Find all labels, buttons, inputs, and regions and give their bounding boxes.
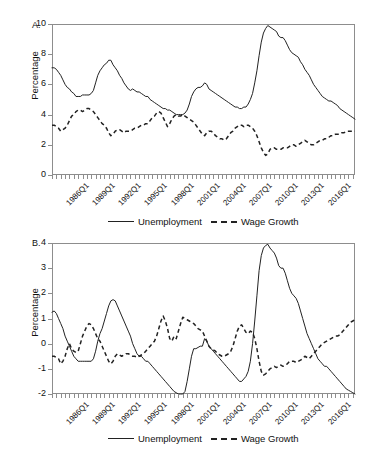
x-tick-mark bbox=[348, 175, 349, 179]
y-tick-label: 1 bbox=[18, 313, 46, 323]
x-tick-mark bbox=[148, 175, 149, 179]
x-tick-mark bbox=[331, 175, 332, 179]
x-tick-mark bbox=[322, 394, 323, 398]
x-tick-mark bbox=[226, 394, 227, 398]
x-tick-mark bbox=[239, 175, 240, 179]
panel-a: A. Percentage 02468101986Q11989Q11992Q11… bbox=[0, 0, 373, 232]
x-tick-mark bbox=[348, 394, 349, 398]
x-tick-mark bbox=[52, 394, 53, 398]
y-tick-mark bbox=[48, 268, 52, 269]
legend-label: Unemployment bbox=[138, 216, 202, 227]
y-tick-mark bbox=[48, 369, 52, 370]
y-tick-label: -1 bbox=[18, 363, 46, 373]
series-unemployment bbox=[52, 244, 355, 394]
x-tick-mark bbox=[274, 175, 275, 179]
x-tick-mark bbox=[104, 175, 105, 179]
x-tick-mark bbox=[61, 175, 62, 179]
y-tick-mark bbox=[48, 145, 52, 146]
x-tick-mark bbox=[69, 394, 70, 398]
x-tick-mark bbox=[344, 175, 345, 179]
x-tick-mark bbox=[91, 175, 92, 179]
x-tick-mark bbox=[205, 394, 206, 398]
panel-b-series-layer bbox=[0, 231, 373, 463]
x-tick-mark bbox=[130, 394, 131, 398]
x-tick-mark bbox=[130, 175, 131, 179]
x-tick-mark bbox=[318, 175, 319, 179]
x-tick-mark bbox=[309, 394, 310, 398]
legend-item: Unemployment bbox=[108, 216, 202, 227]
x-tick-mark bbox=[100, 175, 101, 179]
x-tick-mark bbox=[104, 394, 105, 398]
x-tick-mark bbox=[253, 175, 254, 179]
y-tick-mark bbox=[48, 319, 52, 320]
x-tick-mark bbox=[292, 175, 293, 179]
x-tick-mark bbox=[331, 394, 332, 398]
y-tick-mark bbox=[48, 54, 52, 55]
x-tick-mark bbox=[109, 175, 110, 179]
x-tick-mark bbox=[135, 394, 136, 398]
x-tick-mark bbox=[200, 394, 201, 398]
x-tick-mark bbox=[122, 394, 123, 398]
x-tick-mark bbox=[78, 394, 79, 398]
x-tick-mark bbox=[218, 394, 219, 398]
x-tick-mark bbox=[196, 394, 197, 398]
x-tick-mark bbox=[87, 394, 88, 398]
y-tick-label: 2 bbox=[18, 139, 46, 149]
x-tick-mark bbox=[96, 394, 97, 398]
y-tick-label: 6 bbox=[18, 78, 46, 88]
x-tick-mark bbox=[344, 394, 345, 398]
x-tick-mark bbox=[83, 394, 84, 398]
y-tick-mark bbox=[48, 115, 52, 116]
x-tick-mark bbox=[239, 394, 240, 398]
x-tick-mark bbox=[335, 175, 336, 179]
x-tick-mark bbox=[117, 175, 118, 179]
x-tick-mark bbox=[139, 394, 140, 398]
x-tick-mark bbox=[83, 175, 84, 179]
x-tick-mark bbox=[122, 175, 123, 179]
x-tick-mark bbox=[183, 394, 184, 398]
x-tick-mark bbox=[279, 175, 280, 179]
legend-label: Unemployment bbox=[138, 433, 202, 444]
x-tick-mark bbox=[287, 394, 288, 398]
x-tick-mark bbox=[226, 175, 227, 179]
x-tick-mark bbox=[292, 394, 293, 398]
x-tick-mark bbox=[91, 394, 92, 398]
x-tick-mark bbox=[305, 175, 306, 179]
x-tick-mark bbox=[65, 175, 66, 179]
panel-a-series-layer bbox=[0, 0, 373, 232]
x-tick-mark bbox=[309, 175, 310, 179]
x-tick-mark bbox=[113, 175, 114, 179]
legend-swatch-dashed bbox=[211, 221, 237, 223]
series-wage-growth bbox=[52, 316, 355, 375]
x-tick-mark bbox=[222, 394, 223, 398]
x-tick-mark bbox=[253, 394, 254, 398]
legend-item: Wage Growth bbox=[211, 433, 299, 444]
x-tick-mark bbox=[78, 175, 79, 179]
x-tick-mark bbox=[327, 175, 328, 179]
x-tick-mark bbox=[161, 394, 162, 398]
x-tick-mark bbox=[314, 394, 315, 398]
x-tick-mark bbox=[274, 394, 275, 398]
x-tick-mark bbox=[340, 175, 341, 179]
y-tick-label: 10 bbox=[18, 18, 46, 28]
x-tick-mark bbox=[335, 394, 336, 398]
x-tick-mark bbox=[183, 175, 184, 179]
x-tick-mark bbox=[139, 175, 140, 179]
x-tick-mark bbox=[192, 394, 193, 398]
x-tick-mark bbox=[144, 175, 145, 179]
x-tick-mark bbox=[266, 394, 267, 398]
x-tick-mark bbox=[165, 394, 166, 398]
x-tick-mark bbox=[270, 394, 271, 398]
x-tick-mark bbox=[261, 175, 262, 179]
x-tick-mark bbox=[257, 394, 258, 398]
y-tick-label: 4 bbox=[18, 237, 46, 247]
x-tick-mark bbox=[100, 394, 101, 398]
x-tick-mark bbox=[56, 175, 57, 179]
x-tick-mark bbox=[87, 175, 88, 179]
x-tick-mark bbox=[200, 175, 201, 179]
x-tick-mark bbox=[126, 394, 127, 398]
x-tick-mark bbox=[318, 394, 319, 398]
x-tick-mark bbox=[231, 394, 232, 398]
x-tick-mark bbox=[165, 175, 166, 179]
x-tick-mark bbox=[353, 175, 354, 179]
